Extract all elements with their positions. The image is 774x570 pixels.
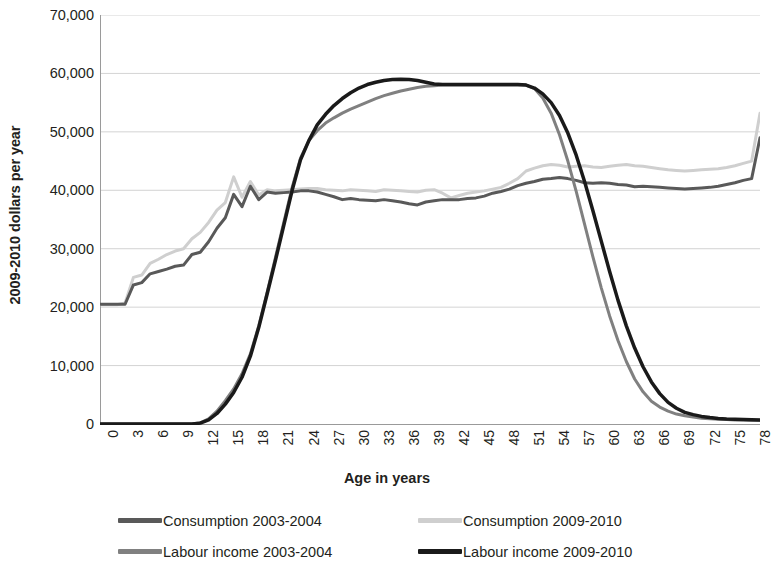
y-axis-tick-label: 0: [8, 416, 94, 432]
y-axis-tick-label: 70,000: [8, 7, 94, 23]
series-line: [100, 138, 760, 305]
x-axis-tick-label: 15: [230, 430, 246, 446]
x-axis-tick-label: 39: [431, 430, 447, 446]
legend-label: Consumption 2003-2004: [163, 513, 322, 529]
legend-item[interactable]: Labour income 2003-2004: [118, 544, 418, 560]
y-axis-tick-label: 20,000: [8, 299, 94, 315]
x-axis-tick-label: 75: [732, 430, 748, 446]
x-axis-tick-label: 45: [481, 430, 497, 446]
legend-item[interactable]: Consumption 2003-2004: [118, 513, 418, 529]
x-axis-tick-label: 3: [130, 430, 146, 438]
legend-swatch: [118, 549, 162, 554]
x-axis-tick-label: 9: [180, 430, 196, 438]
legend-swatch: [418, 518, 462, 523]
x-axis-tick-label: 57: [581, 430, 597, 446]
y-axis-tick-label: 10,000: [8, 358, 94, 374]
x-axis-tick-label: 24: [306, 430, 322, 446]
legend-swatch: [418, 549, 462, 554]
y-axis-tick-label: 40,000: [8, 182, 94, 198]
y-axis-tick-label: 60,000: [8, 65, 94, 81]
x-axis-tick-label: 78: [757, 430, 773, 446]
series-line: [100, 113, 760, 305]
plot-area: [100, 15, 760, 424]
x-axis-tick-label: 66: [656, 430, 672, 446]
chart-legend: Consumption 2003-2004Consumption 2009-20…: [118, 505, 758, 567]
legend-item[interactable]: Consumption 2009-2010: [418, 513, 718, 529]
x-axis-tick-label: 30: [356, 430, 372, 446]
x-axis-tick-label: 21: [280, 430, 296, 446]
x-axis-tick-labels: 0369121518212427303336394245485154576063…: [100, 424, 760, 470]
x-axis-tick-label: 60: [606, 430, 622, 446]
y-axis-tick-label: 30,000: [8, 241, 94, 257]
x-axis-tick-label: 12: [205, 430, 221, 446]
legend-swatch: [118, 518, 162, 523]
chart-svg: [100, 15, 760, 425]
legend-label: Labour income 2003-2004: [163, 544, 332, 560]
x-axis-tick-label: 0: [105, 430, 121, 438]
x-axis-tick-label: 48: [506, 430, 522, 446]
legend-label: Consumption 2009-2010: [463, 513, 622, 529]
x-axis-title: Age in years: [0, 470, 774, 486]
x-axis-tick-label: 54: [556, 430, 572, 446]
chart-figure: 2009-2010 dollars per year 70,00060,0005…: [0, 0, 774, 570]
x-axis-tick-label: 42: [456, 430, 472, 446]
x-axis-tick-label: 63: [631, 430, 647, 446]
x-axis-tick-label: 36: [406, 430, 422, 446]
y-axis-tick-label: 50,000: [8, 124, 94, 140]
x-axis-tick-label: 6: [155, 430, 171, 438]
x-axis-tick-label: 51: [531, 430, 547, 446]
x-axis-tick-label: 27: [331, 430, 347, 446]
legend-label: Labour income 2009-2010: [463, 544, 632, 560]
x-axis-tick-label: 18: [255, 430, 271, 446]
legend-item[interactable]: Labour income 2009-2010: [418, 544, 718, 560]
series-line: [100, 85, 760, 424]
x-axis-tick-label: 33: [381, 430, 397, 446]
x-axis-tick-label: 72: [707, 430, 723, 446]
x-axis-tick-label: 69: [681, 430, 697, 446]
